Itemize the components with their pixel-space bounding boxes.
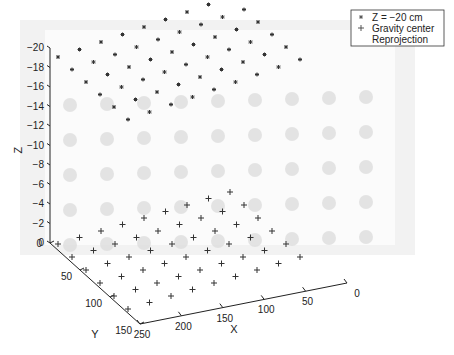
legend-item-gravity-center: Gravity center	[372, 23, 435, 34]
asterisk-marker	[106, 73, 110, 77]
x-tick-label: 50	[302, 296, 314, 307]
asterisk-marker	[149, 58, 153, 62]
asterisk-marker	[242, 8, 246, 12]
asterisk-marker	[178, 30, 182, 34]
plus-marker	[140, 267, 146, 273]
asterisk-marker	[213, 35, 217, 39]
asterisk-marker	[198, 75, 202, 79]
asterisk-marker	[148, 110, 152, 114]
asterisk-marker	[78, 48, 82, 52]
asterisk-marker	[169, 103, 173, 107]
plus-marker	[168, 293, 174, 299]
z-axis-label: Z	[12, 146, 24, 153]
plus-marker	[176, 274, 182, 280]
plus-marker	[147, 300, 153, 306]
asterisk-marker	[227, 48, 231, 52]
asterisk-marker	[235, 28, 239, 32]
asterisk-marker	[164, 18, 168, 22]
plus-marker	[211, 280, 217, 286]
z-tick-label: −14	[27, 101, 44, 112]
asterisk-marker	[185, 10, 189, 14]
plus-marker	[254, 267, 260, 273]
plus-marker	[105, 261, 111, 267]
asterisk-marker	[177, 83, 181, 87]
z-tick-label: −8	[33, 159, 45, 170]
plus-marker	[197, 267, 203, 273]
legend: Z = −20 cm Gravity center Reprojection	[351, 10, 444, 46]
y-tick-label: 50	[61, 271, 73, 282]
asterisk-marker	[249, 40, 253, 44]
asterisk-marker	[192, 43, 196, 47]
plus-marker	[119, 274, 125, 280]
x-axis-label: X	[230, 323, 238, 335]
legend-asterisk-icon	[359, 15, 363, 19]
z-tick-label: −16	[27, 81, 44, 92]
asterisk-marker	[141, 78, 145, 82]
asterisk-marker	[277, 65, 281, 69]
x-tick-label: 200	[175, 321, 192, 332]
plus-marker	[97, 280, 103, 286]
z-tick-label: −12	[27, 120, 44, 131]
asterisk-marker	[255, 73, 259, 77]
asterisk-marker	[127, 65, 131, 69]
z-tick-label: −2	[33, 218, 45, 229]
reprojection-image	[20, 20, 415, 255]
asterisk-marker	[241, 60, 245, 64]
asterisk-marker	[112, 105, 116, 109]
asterisk-marker	[298, 58, 302, 62]
asterisk-marker	[206, 55, 210, 59]
plus-marker	[190, 287, 196, 293]
y-tick-label: 100	[85, 298, 102, 309]
asterisk-marker	[84, 80, 88, 84]
z-tick-label: −4	[33, 198, 45, 209]
asterisk-marker	[121, 33, 125, 37]
asterisk-marker	[99, 40, 103, 44]
asterisk-marker	[156, 38, 160, 42]
asterisk-marker	[70, 68, 74, 72]
asterisk-marker	[284, 45, 288, 49]
z-tick-label: −20	[27, 42, 44, 53]
asterisk-marker	[184, 63, 188, 67]
asterisk-marker	[191, 95, 195, 99]
x-tick-label: 100	[258, 304, 275, 315]
asterisk-marker	[56, 55, 60, 59]
plus-marker	[154, 280, 160, 286]
asterisk-marker	[221, 15, 225, 19]
plus-marker	[219, 261, 225, 267]
z-tick-label: −18	[27, 62, 44, 73]
asterisk-marker	[92, 60, 96, 64]
x-axis: 250200150100500 X	[134, 279, 361, 340]
asterisk-marker	[212, 88, 216, 92]
plus-marker	[276, 261, 282, 267]
asterisk-marker	[263, 53, 267, 57]
asterisk-marker	[199, 23, 203, 27]
x-tick-label: 0	[354, 288, 360, 299]
asterisk-marker	[170, 50, 174, 54]
plus-marker	[162, 261, 168, 267]
asterisk-marker	[207, 3, 211, 7]
asterisk-marker	[134, 98, 138, 102]
asterisk-marker	[120, 85, 124, 89]
asterisk-marker	[270, 33, 274, 37]
x-tick-label: 250	[134, 329, 151, 340]
asterisk-marker	[256, 20, 260, 24]
z-tick-label: −10	[27, 140, 44, 151]
asterisk-marker	[98, 93, 102, 97]
legend-item-z-minus-20: Z = −20 cm	[372, 12, 423, 23]
chart-3d-scatter: −20−18−16−14−12−10−8−6−4−20 Z 050100150 …	[0, 0, 454, 355]
asterisk-marker	[163, 70, 167, 74]
asterisk-marker	[234, 80, 238, 84]
y-tick-label: 0	[36, 238, 42, 249]
plus-marker	[233, 274, 239, 280]
asterisk-marker	[135, 45, 139, 49]
x-tick-label: 150	[216, 313, 233, 324]
plus-marker	[133, 287, 139, 293]
asterisk-marker	[220, 68, 224, 72]
legend-item-reprojection: Reprojection	[372, 34, 428, 45]
asterisk-marker	[126, 118, 130, 122]
asterisk-marker	[113, 53, 117, 57]
asterisk-marker	[155, 90, 159, 94]
asterisk-marker	[142, 25, 146, 29]
y-axis-label: Y	[91, 328, 99, 340]
y-tick-label: 150	[115, 325, 132, 336]
